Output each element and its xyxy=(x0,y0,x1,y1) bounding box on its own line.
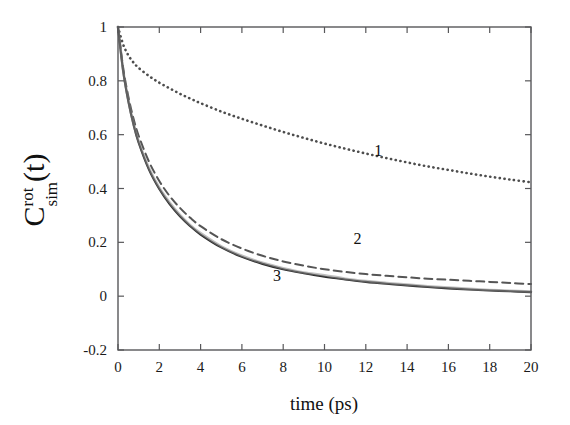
tick-marks xyxy=(118,27,531,350)
curve-2 xyxy=(118,27,531,284)
axes-frame xyxy=(118,27,531,350)
x-tick-label: 0 xyxy=(114,359,122,375)
curve-label-3: 3 xyxy=(273,267,281,284)
x-tick-label: 16 xyxy=(441,359,457,375)
y-tick-labels: 10.80.60.40.20-0.2 xyxy=(83,19,107,358)
y-tick-label: 1 xyxy=(100,19,108,35)
y-axis-title-suffix: (t) xyxy=(17,154,51,182)
y-tick-label: 0.6 xyxy=(88,127,107,143)
x-tick-label: 12 xyxy=(358,359,373,375)
curves-layer xyxy=(118,27,531,292)
y-tick-label: 0.2 xyxy=(88,234,107,250)
x-tick-label: 20 xyxy=(524,359,539,375)
y-tick-label: 0.4 xyxy=(88,181,107,197)
y-axis-title-subscript: sim xyxy=(42,182,61,207)
x-tick-label: 6 xyxy=(238,359,246,375)
x-tick-label: 14 xyxy=(400,359,416,375)
curve-label-1: 1 xyxy=(374,142,382,159)
y-axis-title-base: C xyxy=(17,206,50,226)
curve-3-noise xyxy=(118,27,531,292)
y-axis-title: Crotsim(t) xyxy=(17,154,61,227)
y-tick-label: 0 xyxy=(100,288,108,304)
x-axis-title: time (ps) xyxy=(290,393,358,415)
y-axis-title-superscript: rot xyxy=(18,187,37,206)
x-tick-label: 18 xyxy=(482,359,497,375)
x-tick-label: 10 xyxy=(317,359,332,375)
x-tick-label: 4 xyxy=(197,359,205,375)
y-tick-label: -0.2 xyxy=(83,342,107,358)
plot-frame xyxy=(118,27,531,350)
curve-1 xyxy=(118,27,531,182)
rotational-correlation-plot: 02468101214161820 10.80.60.40.20-0.2 123… xyxy=(0,0,570,425)
figure-container: 02468101214161820 10.80.60.40.20-0.2 123… xyxy=(0,0,570,425)
x-tick-label: 2 xyxy=(156,359,164,375)
svg-text:Crotsim(t): Crotsim(t) xyxy=(17,154,61,227)
curve-3 xyxy=(118,27,531,292)
curve-label-2: 2 xyxy=(354,230,362,247)
x-tick-label: 8 xyxy=(279,359,287,375)
y-tick-label: 0.8 xyxy=(88,73,107,89)
x-tick-labels: 02468101214161820 xyxy=(114,359,538,375)
